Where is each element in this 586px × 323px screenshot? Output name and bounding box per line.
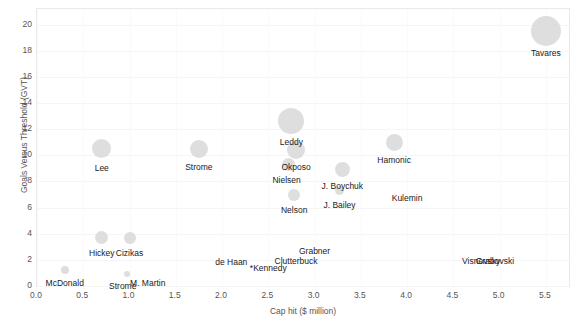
gridline-vertical — [361, 9, 362, 286]
x-tick-label: 3.0 — [294, 290, 334, 300]
data-point-bubble[interactable] — [386, 134, 403, 151]
data-point-label: Grabovski — [476, 256, 514, 266]
x-tick-label: 5.0 — [479, 290, 519, 300]
data-point-label: Tavares — [531, 48, 561, 58]
data-point-bubble[interactable] — [124, 232, 136, 244]
data-point-label: Okposo — [281, 162, 310, 172]
data-point-label: Nelson — [281, 205, 307, 215]
x-tick-label: 0.5 — [62, 290, 102, 300]
data-point-label: Lee — [95, 163, 109, 173]
data-point-label: J. Bailey — [323, 200, 355, 210]
gridline-vertical — [176, 9, 177, 286]
gridline-vertical — [453, 9, 454, 286]
x-tick-label: 4.5 — [432, 290, 472, 300]
gridline-horizontal — [37, 181, 569, 182]
y-tick-label: 2 — [6, 255, 32, 264]
x-tick-label: 1.0 — [109, 290, 149, 300]
gridline-vertical — [407, 9, 408, 286]
data-point-label: Cizikas — [116, 248, 143, 258]
gridline-horizontal — [37, 234, 569, 235]
gridline-vertical — [37, 9, 38, 286]
data-point-label: de Haan — [215, 257, 247, 267]
gridline-vertical — [268, 9, 269, 286]
data-point-label: J. Boychuk — [322, 181, 364, 191]
bubble-chart: 02468101214161820 TavaresLeddyOkposoNiel… — [0, 0, 586, 323]
x-axis-ticks: 0.00.51.01.52.02.53.03.54.04.55.05.5 — [36, 290, 570, 304]
data-point-bubble[interactable] — [61, 266, 69, 274]
data-point-label: Nielsen — [272, 175, 300, 185]
gridline-vertical — [222, 9, 223, 286]
y-axis-title: Goals Versus Threshold (GVT) — [19, 15, 29, 255]
gridline-vertical — [130, 9, 131, 286]
gridline-vertical — [83, 9, 84, 286]
data-point-label: Kulemin — [392, 193, 423, 203]
data-point-label: *Kennedy — [250, 263, 287, 273]
x-tick-label: 5.5 — [525, 290, 565, 300]
data-point-label: Leddy — [280, 137, 303, 147]
x-tick-label: 1.5 — [155, 290, 195, 300]
data-point-label: M. Martin — [130, 278, 165, 288]
data-point-bubble[interactable] — [124, 271, 130, 277]
x-axis-title: Cap hit ($ million) — [36, 306, 570, 316]
x-tick-label: 3.5 — [340, 290, 380, 300]
data-point-bubble[interactable] — [288, 189, 300, 201]
x-tick-label: 4.0 — [386, 290, 426, 300]
gridline-vertical — [315, 9, 316, 286]
x-tick-label: 0.0 — [16, 290, 56, 300]
gridline-horizontal — [37, 103, 569, 104]
x-tick-label: 2.5 — [247, 290, 287, 300]
data-point-label: Strome — [185, 162, 212, 172]
gridline-horizontal — [37, 77, 569, 78]
plot-area: TavaresLeddyOkposoNielsenHamonicLeeStrom… — [36, 8, 570, 287]
data-point-label: Hickey — [89, 248, 115, 258]
data-point-bubble[interactable] — [278, 108, 304, 134]
gridline-horizontal — [37, 129, 569, 130]
data-point-label: McDonald — [46, 278, 84, 288]
data-point-bubble[interactable] — [531, 16, 561, 46]
gridline-horizontal — [37, 25, 569, 26]
data-point-bubble[interactable] — [335, 162, 350, 177]
clipped-title-text — [0, 0, 586, 4]
x-tick-label: 2.0 — [201, 290, 241, 300]
data-point-label: Hamonic — [377, 155, 411, 165]
gridline-vertical — [500, 9, 501, 286]
y-tick-label: 0 — [6, 281, 32, 290]
data-point-bubble[interactable] — [95, 231, 108, 244]
data-point-bubble[interactable] — [190, 140, 208, 158]
gridline-horizontal — [37, 51, 569, 52]
